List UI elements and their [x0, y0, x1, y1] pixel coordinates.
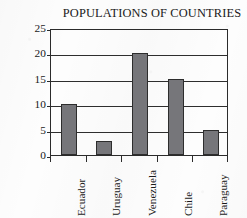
y-axis-tick	[47, 81, 51, 82]
chart-title: POPULATIONS OF COUNTRIES	[58, 6, 246, 20]
bar-chart-figure: POPULATIONS OF COUNTRIES Millions of Peo…	[0, 0, 247, 218]
bar	[96, 141, 112, 155]
y-axis-tick	[47, 106, 51, 107]
y-axis-tick	[47, 30, 51, 31]
y-axis-tick-label: 0	[26, 150, 46, 161]
x-axis-tick-label: Chile	[181, 158, 195, 216]
y-axis-tick-label: 15	[26, 74, 46, 85]
bar	[61, 104, 77, 155]
y-axis-tick-label: 25	[26, 23, 46, 34]
x-axis-tick-label: Ecuador	[74, 158, 88, 216]
y-axis-tick-label: 5	[26, 125, 46, 136]
x-axis-tick-label: Paraguay	[216, 158, 230, 216]
x-axis-tick	[50, 156, 51, 162]
y-axis-tick	[47, 132, 51, 133]
bar	[168, 79, 184, 155]
y-axis-tick-label: 10	[26, 99, 46, 110]
y-axis-tick	[47, 55, 51, 56]
plot-area	[50, 29, 228, 156]
y-axis-tick-labels: 0510152025	[24, 29, 46, 156]
bar	[203, 130, 219, 155]
y-axis-tick-label: 20	[26, 48, 46, 59]
x-axis-tick-label: Venezuela	[145, 158, 159, 216]
bar	[132, 53, 148, 155]
x-axis-tick-labels: EcuadorUruguayVenezuelaChileParaguay	[50, 164, 228, 218]
x-axis-tick-label: Uruguay	[109, 158, 123, 216]
